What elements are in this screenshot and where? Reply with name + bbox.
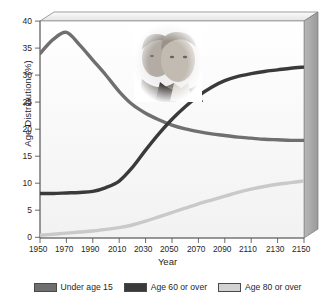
x-tick-label: 2090 [213,244,231,254]
y-tick-label: 0 [12,232,32,242]
legend-swatch-icon [124,283,147,292]
legend-swatch-icon [218,283,241,292]
legend-item-under-age-15: Under age 15 [34,282,113,292]
y-axis-title: Age Distribution (%) [22,29,33,179]
x-tick-label: 1950 [29,244,47,254]
legend-item-age-80-or-over: Age 80 or over [218,282,301,292]
x-tick-label: 1970 [55,244,73,254]
legend-swatch-icon [34,283,57,292]
age-distribution-chart: 40 35 30 25 20 15 10 5 0 1950 1970 1990 … [0,0,335,302]
legend-label: Age 60 or over [151,282,207,292]
photo-vignette [134,24,202,102]
y-axis-ticks [35,21,40,237]
x-tick-label: 2150 [292,244,310,254]
x-axis-ticks [40,238,304,243]
x-tick-label: 2010 [108,244,126,254]
x-tick-label: 2130 [266,244,284,254]
x-tick-label: 2110 [239,244,257,254]
legend-item-age-60-or-over: Age 60 or over [124,282,207,292]
x-axis-title: Year [0,256,335,267]
y-tick-label: 40 [12,16,32,26]
elderly-couple-photo [134,24,203,102]
x-tick-label: 2050 [160,244,178,254]
y-tick-label: 5 [12,205,32,215]
plot-box-right-face [304,12,318,238]
plot-box-top-face [40,12,318,21]
legend-label: Under age 15 [61,282,113,292]
legend-label: Age 80 or over [245,282,301,292]
x-tick-label: 1990 [81,244,99,254]
chart-legend: Under age 15 Age 60 or over Age 80 or ov… [0,278,335,296]
x-tick-label: 2030 [134,244,152,254]
x-tick-label: 2070 [187,244,205,254]
y-tick-label: 10 [12,178,32,188]
